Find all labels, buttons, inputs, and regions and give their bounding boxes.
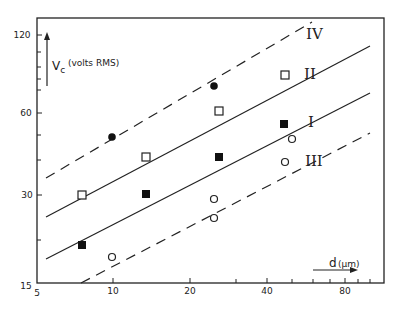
y-tick-30: 30: [21, 190, 33, 200]
x-tick-10: 10: [107, 286, 119, 296]
y-ticks: [37, 35, 42, 240]
label-IV: IV: [306, 25, 324, 43]
label-I: I: [308, 113, 314, 131]
line-IV: [46, 22, 312, 178]
line-II: [46, 46, 370, 217]
line-I: [46, 93, 370, 259]
y-tick-60: 60: [20, 108, 32, 118]
series-III-markers: [109, 136, 296, 261]
chart: 15 30 60 120 5 10 20 40 80 Vc (volts RMS…: [0, 0, 403, 309]
y-axis-arrow: [44, 32, 50, 86]
x-tick-40: 40: [261, 286, 273, 296]
y-axis-unit: (volts RMS): [68, 58, 119, 68]
label-II: II: [304, 65, 316, 83]
y-tick-15: 15: [20, 281, 31, 291]
x-ticks: [113, 278, 370, 283]
x-tick-80: 80: [339, 286, 351, 296]
x-tick-5: 5: [34, 288, 40, 298]
x-axis-unit: (μm): [338, 259, 360, 269]
y-tick-120: 120: [13, 30, 30, 40]
x-axis-title: d: [329, 256, 337, 270]
x-tick-20: 20: [184, 286, 196, 296]
y-axis-title: Vc: [52, 59, 65, 75]
label-III: III: [305, 152, 323, 170]
line-III: [81, 133, 370, 283]
